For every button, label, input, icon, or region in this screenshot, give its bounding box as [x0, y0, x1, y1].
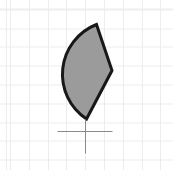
pie-sector-shape[interactable] [62, 25, 112, 120]
drawing-canvas [0, 0, 173, 170]
shape-layer [0, 0, 173, 170]
